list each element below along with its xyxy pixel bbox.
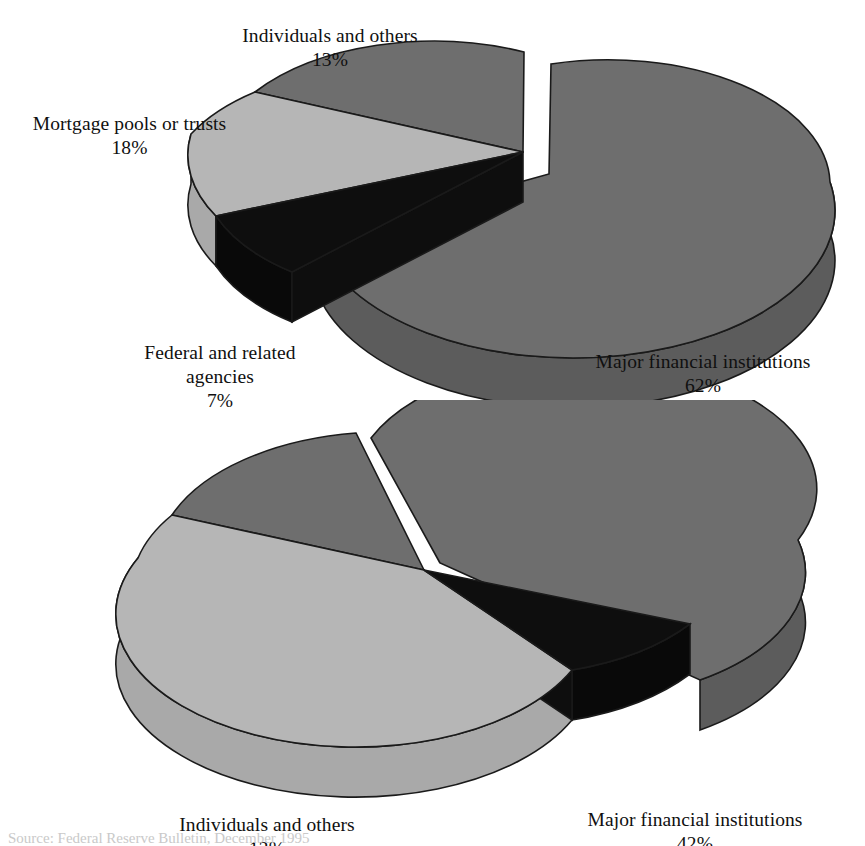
top-label-major-value: 62% bbox=[548, 374, 858, 398]
top-label-individuals-name: Individuals and others bbox=[185, 24, 475, 48]
top-label-individuals-and-others: Individuals and others 13% bbox=[185, 24, 475, 72]
top-label-mortgage-pools-or-trusts: Mortgage pools or trusts 18% bbox=[0, 112, 267, 160]
bottom-label-major-name: Major financial institutions bbox=[540, 808, 850, 832]
top-label-major-financial-institutions: Major financial institutions 62% bbox=[548, 350, 858, 398]
top-label-mortgage-name: Mortgage pools or trusts bbox=[0, 112, 267, 136]
pie-chart-figure: Individuals and others 13% Mortgage pool… bbox=[0, 0, 865, 846]
top-pie-chart: Individuals and others 13% Mortgage pool… bbox=[0, 0, 865, 405]
bottom-pie-chart: Individuals and others 13% Major financi… bbox=[0, 400, 865, 825]
top-label-federal-name-line2: agencies bbox=[95, 365, 345, 389]
bottom-label-major-financial-institutions: Major financial institutions 42% bbox=[540, 808, 850, 846]
top-label-major-name: Major financial institutions bbox=[548, 350, 858, 374]
source-note: Source: Federal Reserve Bulletin, Decemb… bbox=[8, 830, 310, 846]
bottom-pie-graphic bbox=[0, 400, 865, 825]
bottom-label-major-value: 42% bbox=[540, 832, 850, 846]
top-label-federal-name-line1: Federal and related bbox=[95, 341, 345, 365]
top-label-individuals-value: 13% bbox=[185, 48, 475, 72]
top-label-mortgage-value: 18% bbox=[0, 136, 267, 160]
